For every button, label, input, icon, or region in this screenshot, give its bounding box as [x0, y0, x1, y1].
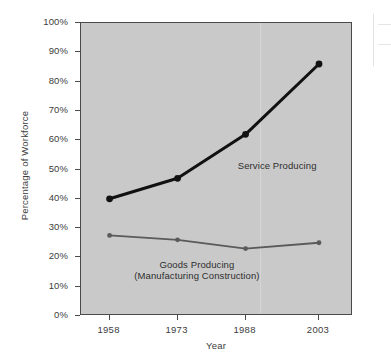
x-axis-tick-label: 1988 [215, 324, 275, 335]
y-axis-tick-mark [75, 315, 80, 316]
data-point [242, 131, 249, 138]
y-axis-tick-mark [75, 286, 80, 287]
chart-figure: Percentage of Workforce 100%90%80%70%60%… [0, 0, 391, 361]
annotation-line: (Manufacturing Construction) [134, 270, 259, 281]
data-point [107, 233, 112, 238]
x-axis-tick-label: 2003 [288, 324, 348, 335]
x-axis-tick-mark [177, 315, 178, 320]
y-axis-tick-label: 10% [22, 280, 68, 291]
y-axis-tick-mark [75, 227, 80, 228]
series-service-producing-markers [106, 61, 322, 203]
series-goods-producing-markers [107, 233, 321, 251]
series-service-producing-line [110, 64, 319, 199]
data-point [174, 175, 181, 182]
y-axis-tick-mark [75, 51, 80, 52]
y-axis-tick-label: 30% [22, 221, 68, 232]
x-axis-tick-label: 1973 [147, 324, 207, 335]
data-point [317, 240, 322, 245]
y-axis-tick-mark [75, 256, 80, 257]
y-axis-tick-mark [75, 22, 80, 23]
annotation-line: Service Producing [238, 160, 317, 171]
data-point [106, 195, 113, 202]
annotation-line: Goods Producing [134, 259, 259, 270]
y-axis-tick-mark [75, 110, 80, 111]
y-axis-tick-mark [75, 169, 80, 170]
x-axis-tick-label: 1958 [79, 324, 139, 335]
data-point [243, 246, 248, 251]
y-axis-tick-label: 90% [22, 45, 68, 56]
y-axis-tick-label: 70% [22, 104, 68, 115]
y-axis-tick-label: 40% [22, 192, 68, 203]
x-axis-tick-mark [245, 315, 246, 320]
y-axis-tick-label: 80% [22, 75, 68, 86]
y-axis-tick-mark [75, 139, 80, 140]
series-annotation: Service Producing [238, 160, 317, 171]
x-axis-tick-mark [109, 315, 110, 320]
y-axis-tick-label: 100% [22, 16, 68, 27]
y-axis-tick-label: 20% [22, 250, 68, 261]
y-axis-tick-label: 0% [22, 309, 68, 320]
data-point [175, 237, 180, 242]
data-point [316, 61, 323, 68]
y-axis-tick-mark [75, 198, 80, 199]
x-axis-tick-mark [318, 315, 319, 320]
y-axis-tick-mark [75, 81, 80, 82]
series-goods-producing-line [110, 235, 319, 248]
page-edge-artifact [373, 14, 391, 66]
y-axis-tick-label: 50% [22, 163, 68, 174]
y-axis-tick-label: 60% [22, 133, 68, 144]
x-axis-title: Year [80, 340, 352, 351]
series-annotation: Goods Producing(Manufacturing Constructi… [134, 259, 259, 281]
